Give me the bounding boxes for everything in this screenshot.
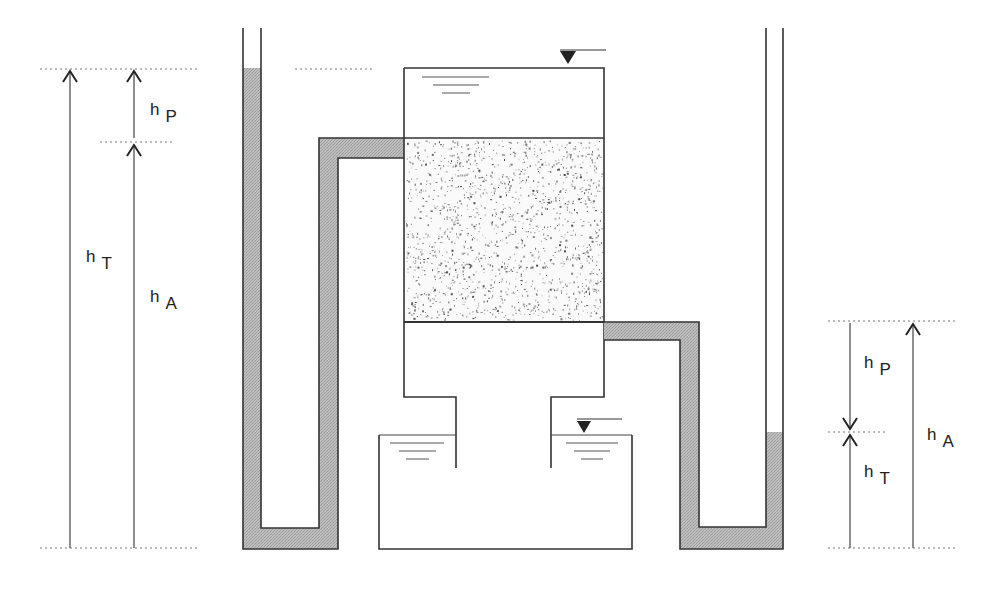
filter-column bbox=[404, 50, 606, 468]
basin-level-triangle-icon bbox=[577, 421, 591, 433]
outlet-pipe bbox=[604, 28, 783, 549]
basin-outline bbox=[379, 435, 632, 549]
left-ht-label: hT bbox=[86, 247, 112, 273]
left-ha-label: hA bbox=[150, 287, 177, 313]
inlet-pipe bbox=[243, 28, 404, 549]
water-level-triangle-icon bbox=[560, 51, 576, 64]
outlet-basin bbox=[379, 419, 632, 549]
diagram-canvas: hT hP hA bbox=[0, 0, 989, 599]
right-ht-label: hT bbox=[864, 462, 890, 488]
right-ha-label: hA bbox=[927, 425, 954, 451]
right-hp-label: hP bbox=[864, 353, 891, 379]
inlet-pipe-water bbox=[243, 68, 404, 549]
right-dimension-group: hP hT hA bbox=[828, 321, 955, 548]
left-hp-label: hP bbox=[150, 100, 177, 126]
